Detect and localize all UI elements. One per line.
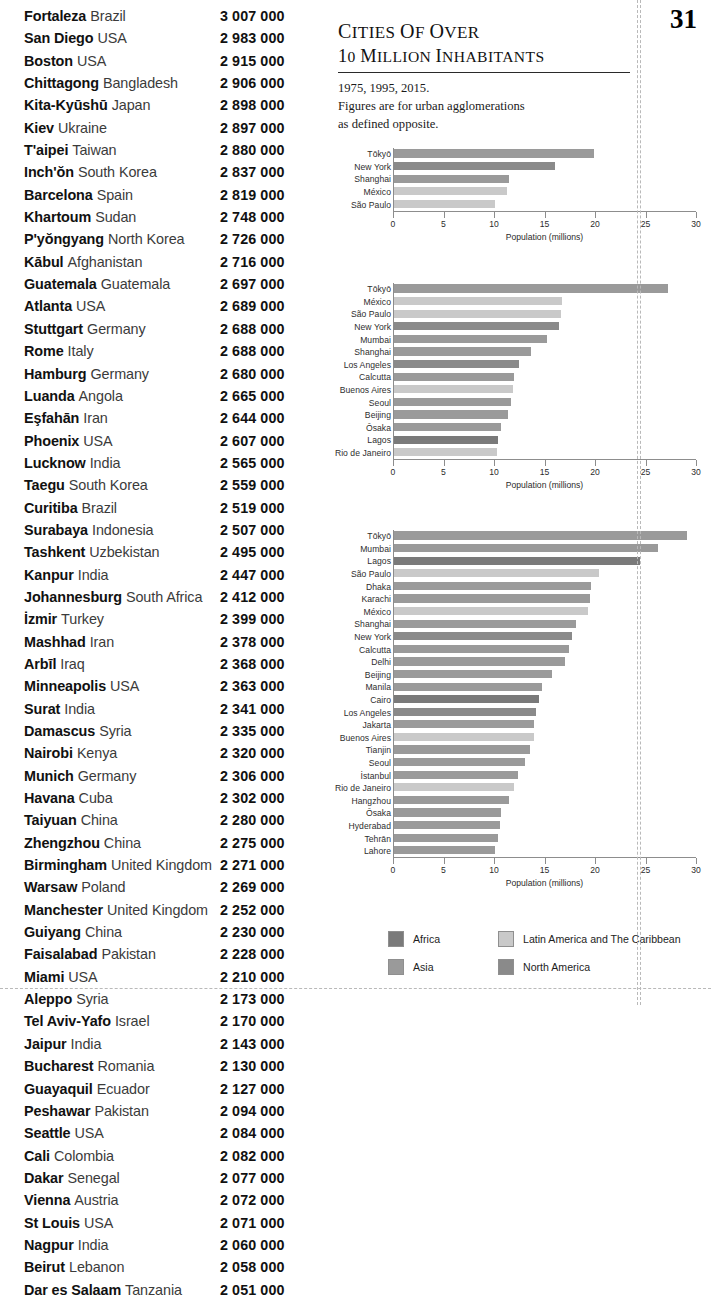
city-population: 2 507 000 — [220, 522, 324, 538]
city-name: Vienna — [24, 1192, 70, 1208]
x-axis-tick-label: 30 — [691, 467, 701, 477]
x-axis-tick — [494, 212, 495, 218]
x-axis-tick — [494, 460, 495, 466]
bar — [394, 783, 514, 791]
bar-category-label: México — [363, 297, 391, 307]
x-axis-tick-label: 10 — [489, 219, 499, 229]
city-label: KhartoumSudan — [24, 209, 220, 225]
city-name: Kanpur — [24, 567, 74, 583]
city-population: 2 302 000 — [220, 790, 324, 806]
bar-row: Karachi — [394, 593, 697, 606]
city-row: TaiyuanChina2 280 000 — [0, 812, 324, 834]
city-label: BarcelonaSpain — [24, 187, 220, 203]
city-population: 2 378 000 — [220, 634, 324, 650]
bar-row: São Paulo — [394, 568, 697, 581]
city-row: AleppoSyria2 173 000 — [0, 991, 324, 1013]
city-name: Guiyang — [24, 924, 81, 940]
bar — [394, 695, 539, 703]
bar — [394, 632, 572, 640]
city-population: 2 447 000 — [220, 567, 324, 583]
bar-category-label: Beijing — [365, 670, 391, 680]
bar-row: Calcutta — [394, 643, 697, 656]
legend-label: Latin America and The Caribbean — [523, 933, 681, 945]
city-row: JohannesburgSouth Africa2 412 000 — [0, 589, 324, 611]
city-row: DakarSenegal2 077 000 — [0, 1170, 324, 1192]
city-country: Bangladesh — [103, 75, 178, 91]
bar — [394, 720, 534, 728]
city-row: San DiegoUSA2 983 000 — [0, 30, 324, 52]
x-axis: 051015202530Population (millions) — [393, 857, 696, 869]
x-axis-tick-label: 5 — [441, 219, 446, 229]
city-country: Cuba — [79, 790, 113, 806]
city-country: South Korea — [69, 477, 148, 493]
city-label: Kita-KyūshūJapan — [24, 97, 220, 113]
city-population: 2 170 000 — [220, 1013, 324, 1029]
city-country: Colombia — [54, 1148, 114, 1164]
city-row: DamascusSyria2 335 000 — [0, 723, 324, 745]
city-population: 2 143 000 — [220, 1036, 324, 1052]
bar — [394, 607, 588, 615]
legend-item-africa[interactable]: Africa — [388, 931, 498, 947]
city-row: KābulAfghanistan2 716 000 — [0, 254, 324, 276]
city-row: HamburgGermany2 680 000 — [0, 366, 324, 388]
city-country: Japan — [112, 97, 151, 113]
city-population: 2 983 000 — [220, 30, 324, 46]
crop-guide-vertical-right — [640, 0, 641, 1005]
bar-category-label: Calcutta — [359, 372, 391, 382]
city-country: Indonesia — [92, 522, 154, 538]
city-country: USA — [75, 1125, 104, 1141]
bar-row: Ōsaka — [394, 807, 697, 820]
bar-category-label: Tianjin — [366, 745, 391, 755]
bar-row: New York — [394, 631, 697, 644]
city-row: T'aipeiTaiwan2 880 000 — [0, 142, 324, 164]
city-label: San DiegoUSA — [24, 30, 220, 46]
bar-category-label: Shanghai — [354, 174, 391, 184]
bar — [394, 322, 559, 330]
x-axis-tick — [595, 460, 596, 466]
city-label: RomeItaly — [24, 343, 220, 359]
bar-category-label: Rio de Janeiro — [335, 448, 391, 458]
city-name: Guatemala — [24, 276, 97, 292]
legend-swatch — [388, 959, 404, 975]
bar-row: Los Angeles — [394, 359, 697, 372]
bar — [394, 544, 658, 552]
city-population: 2 607 000 — [220, 433, 324, 449]
x-axis-title: Population (millions) — [393, 480, 696, 490]
city-name: Stuttgart — [24, 321, 83, 337]
bar-category-label: Hangzhou — [351, 796, 391, 806]
bar — [394, 200, 495, 208]
legend-item-north-america[interactable]: North America — [498, 959, 590, 975]
bar-row: Lahore — [394, 845, 697, 858]
city-row: Dar es SalaamTanzania2 051 000 — [0, 1282, 324, 1299]
city-label: ZhengzhouChina — [24, 835, 220, 851]
legend-item-asia[interactable]: Asia — [388, 959, 498, 975]
legend-item-latin-america[interactable]: Latin America and The Caribbean — [498, 931, 681, 947]
city-label: BirminghamUnited Kingdom — [24, 857, 220, 873]
city-country: Iran — [90, 634, 114, 650]
bar — [394, 796, 509, 804]
city-row: P'yŏngyangNorth Korea2 726 000 — [0, 231, 324, 253]
x-axis-tick — [646, 858, 647, 864]
city-label: CaliColombia — [24, 1148, 220, 1164]
city-population: 2 748 000 — [220, 209, 324, 225]
city-label: KievUkraine — [24, 120, 220, 136]
bar-category-label: Tōkyō — [367, 284, 391, 294]
bar-row: México — [394, 186, 697, 199]
city-population: 2 341 000 — [220, 701, 324, 717]
city-population: 2 680 000 — [220, 366, 324, 382]
city-population: 2 210 000 — [220, 969, 324, 985]
city-country: India — [78, 567, 109, 583]
bar — [394, 347, 531, 355]
city-row: KanpurIndia2 447 000 — [0, 567, 324, 589]
bar-row: Mumbai — [394, 543, 697, 556]
legend-swatch — [388, 931, 404, 947]
bar-category-label: Jakarta — [362, 720, 391, 730]
bar-row: Beijing — [394, 409, 697, 422]
x-axis-tick-label: 0 — [391, 865, 396, 875]
city-name: St Louis — [24, 1215, 80, 1231]
city-row: BeirutLebanon2 058 000 — [0, 1259, 324, 1281]
city-country: Lebanon — [69, 1259, 124, 1275]
bar — [394, 846, 495, 854]
bar-category-label: Tehrān — [364, 834, 391, 844]
city-name: Arbīl — [24, 656, 56, 672]
